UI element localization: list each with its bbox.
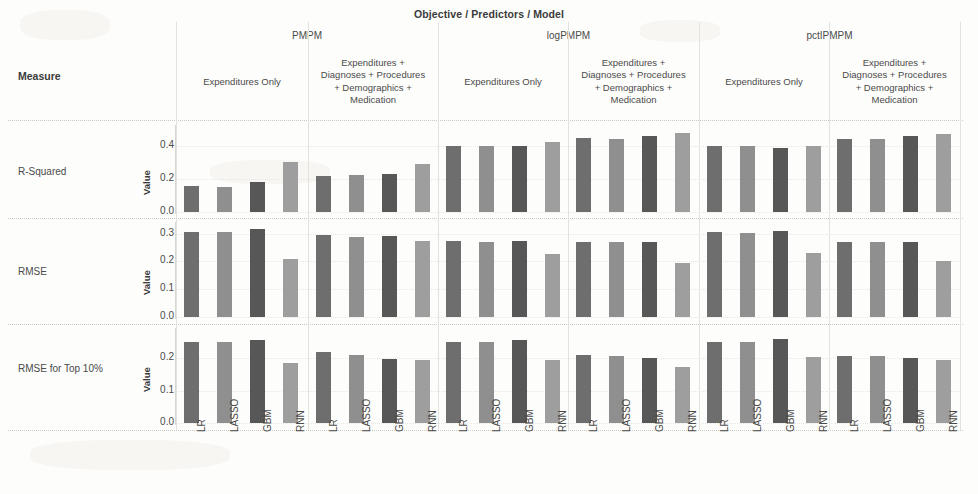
x-axis-1 <box>176 317 960 318</box>
x-axis-2 <box>176 423 960 424</box>
bar-rmse-5-lr <box>837 242 852 317</box>
bar-rmse-4-lasso <box>740 233 755 317</box>
measure-divider-1 <box>8 218 963 219</box>
bar-r-squared-0-gbm <box>250 182 265 212</box>
bar-rmse-2-lr <box>446 241 461 317</box>
measure-label-1: RMSE <box>18 265 118 278</box>
bar-r-squared-2-gbm <box>512 146 527 212</box>
page-title: Objective / Predictors / Model <box>0 8 978 20</box>
scan-noise <box>640 20 720 42</box>
bar-rmse-1-gbm <box>382 236 397 317</box>
bar-r-squared-0-lr <box>184 186 199 212</box>
bar-rmse-4-gbm <box>773 231 788 317</box>
x-tick-3-gbm: GBM <box>654 409 665 432</box>
x-tick-5-lr: LR <box>849 419 860 432</box>
x-tick-2-lasso: LASSO <box>491 399 502 432</box>
chart-sheet: Objective / Predictors / Model Measure P… <box>0 0 978 494</box>
bar-r-squared-2-lasso <box>479 146 494 212</box>
y-tick-0-0.2: 0.2 <box>148 172 174 183</box>
x-tick-1-rnn: RNN <box>427 410 438 432</box>
bar-rmse-for-top-10--0-lr <box>184 342 199 423</box>
bar-rmse-3-gbm <box>642 242 657 317</box>
measure-divider-2 <box>8 324 963 325</box>
bar-r-squared-2-lr <box>446 146 461 212</box>
bar-r-squared-5-lasso <box>870 139 885 212</box>
x-tick-0-lr: LR <box>196 419 207 432</box>
bar-rmse-0-lr <box>184 232 199 317</box>
bar-rmse-0-rnn <box>283 259 298 317</box>
x-tick-2-rnn: RNN <box>557 410 568 432</box>
bar-rmse-for-top-10--2-lr <box>446 342 461 423</box>
y-tick-2-0.1: 0.1 <box>148 384 174 395</box>
bar-rmse-for-top-10--4-lr <box>707 342 722 423</box>
measure-label-2: RMSE for Top 10% <box>18 362 118 375</box>
bar-rmse-3-lasso <box>609 242 624 317</box>
x-tick-1-lr: LR <box>328 419 339 432</box>
bar-r-squared-0-rnn <box>283 162 298 212</box>
y-tick-1-0.3: 0.3 <box>148 227 174 238</box>
y-axis-1 <box>175 222 176 319</box>
x-tick-0-lasso: LASSO <box>229 399 240 432</box>
bar-rmse-for-top-10--1-lr <box>316 352 331 423</box>
bar-r-squared-1-lr <box>316 176 331 212</box>
predictor-header-3: Expenditures +Diagnoses + Procedures+ De… <box>568 57 699 107</box>
x-tick-1-lasso: LASSO <box>361 399 372 432</box>
bar-rmse-0-lasso <box>217 232 232 317</box>
panel-separator-3 <box>568 22 569 430</box>
x-tick-3-lasso: LASSO <box>621 399 632 432</box>
bar-r-squared-1-rnn <box>415 164 430 212</box>
x-tick-2-gbm: GBM <box>524 409 535 432</box>
x-tick-5-rnn: RNN <box>948 410 959 432</box>
x-tick-4-lasso: LASSO <box>752 399 763 432</box>
bar-r-squared-3-lasso <box>609 139 624 212</box>
y-tick-1-0.2: 0.2 <box>148 254 174 265</box>
bar-rmse-for-top-10--3-lr <box>576 355 591 423</box>
predictor-header-2: Expenditures Only <box>438 76 568 88</box>
bar-r-squared-4-lr <box>707 146 722 212</box>
x-tick-2-lr: LR <box>458 419 469 432</box>
bar-rmse-1-lasso <box>349 237 364 317</box>
panel-separator-2 <box>438 22 439 430</box>
measure-divider-0 <box>8 120 963 121</box>
panel-separator-1 <box>308 22 309 430</box>
x-tick-4-rnn: RNN <box>818 410 829 432</box>
bar-rmse-2-rnn <box>545 254 560 317</box>
bar-r-squared-4-lasso <box>740 146 755 212</box>
bar-rmse-1-rnn <box>415 241 430 317</box>
predictor-header-1: Expenditures +Diagnoses + Procedures+ De… <box>308 57 438 107</box>
y-tick-2-0.2: 0.2 <box>148 351 174 362</box>
x-tick-4-lr: LR <box>719 419 730 432</box>
bar-rmse-0-gbm <box>250 229 265 317</box>
x-axis-0 <box>176 212 960 213</box>
y-tick-1-0.1: 0.1 <box>148 282 174 293</box>
bar-rmse-4-rnn <box>806 253 821 317</box>
predictor-header-4: Expenditures Only <box>699 76 829 88</box>
bar-rmse-4-lr <box>707 232 722 317</box>
y-axis-0 <box>175 125 176 214</box>
x-tick-3-rnn: RNN <box>687 410 698 432</box>
bar-r-squared-4-rnn <box>806 146 821 212</box>
y-tick-2-0: 0.0 <box>148 416 174 427</box>
bar-r-squared-5-gbm <box>903 136 918 212</box>
x-tick-0-rnn: RNN <box>295 410 306 432</box>
panel-separator-5 <box>829 22 830 430</box>
bar-rmse-for-top-10--5-lr <box>837 356 852 423</box>
bar-r-squared-3-rnn <box>675 133 690 212</box>
x-tick-1-gbm: GBM <box>394 409 405 432</box>
bar-r-squared-1-lasso <box>349 175 364 212</box>
bar-rmse-1-lr <box>316 235 331 317</box>
panel-separator-4 <box>699 22 700 430</box>
x-tick-4-gbm: GBM <box>785 409 796 432</box>
x-tick-3-lr: LR <box>588 419 599 432</box>
y-tick-0-0.4: 0.4 <box>148 139 174 150</box>
objective-header-pmpm: PMPM <box>227 30 387 41</box>
panel-separator-0 <box>176 22 177 430</box>
bar-rmse-5-lasso <box>870 242 885 317</box>
y-axis-2 <box>175 328 176 425</box>
bar-r-squared-3-gbm <box>642 136 657 212</box>
bar-rmse-5-gbm <box>903 242 918 317</box>
bar-rmse-3-rnn <box>675 263 690 317</box>
bar-r-squared-5-rnn <box>936 134 951 212</box>
bar-rmse-2-gbm <box>512 241 527 317</box>
bar-r-squared-4-gbm <box>773 148 788 212</box>
